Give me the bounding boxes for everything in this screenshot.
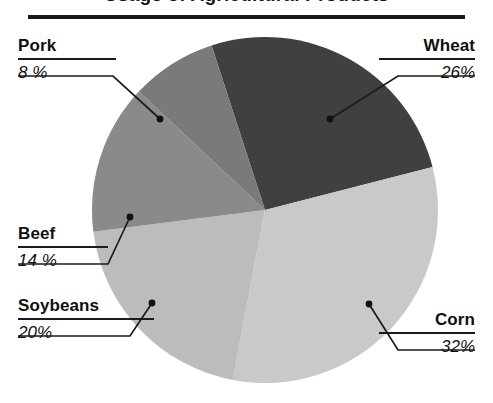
slice-label-pork-percent: 8 % bbox=[18, 62, 116, 83]
slice-label-beef-percent: 14 % bbox=[18, 250, 108, 271]
slice-label-soybeans[interactable]: Soybeans 20% bbox=[18, 296, 154, 343]
slice-label-beef[interactable]: Beef 14 % bbox=[18, 224, 108, 271]
slice-label-pork[interactable]: Pork 8 % bbox=[18, 36, 116, 83]
slice-label-wheat[interactable]: Wheat 26% bbox=[379, 36, 475, 83]
slice-label-soybeans-percent: 20% bbox=[18, 322, 154, 343]
slice-label-soybeans-name: Soybeans bbox=[18, 296, 154, 316]
slice-label-corn-percent: 32% bbox=[379, 336, 475, 357]
slice-label-beef-rule bbox=[18, 246, 108, 248]
slice-label-corn-name: Corn bbox=[379, 310, 475, 330]
slice-label-corn[interactable]: Corn 32% bbox=[379, 310, 475, 357]
page-title: Usage of Agricultural Products bbox=[0, 0, 493, 6]
slice-label-beef-name: Beef bbox=[18, 224, 108, 244]
slice-label-wheat-percent: 26% bbox=[379, 62, 475, 83]
slice-label-wheat-rule bbox=[379, 58, 475, 60]
slice-label-wheat-name: Wheat bbox=[379, 36, 475, 56]
slice-label-corn-rule bbox=[379, 332, 475, 334]
slice-label-pork-name: Pork bbox=[18, 36, 116, 56]
title-divider bbox=[28, 15, 465, 19]
slice-label-pork-rule bbox=[18, 58, 116, 60]
pie-chart-figure: Usage of Agricultural Products Pork 8 % … bbox=[0, 0, 493, 403]
slice-label-soybeans-rule bbox=[18, 318, 154, 320]
